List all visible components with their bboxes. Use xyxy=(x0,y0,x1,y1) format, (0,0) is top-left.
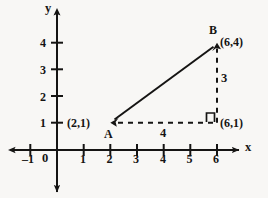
x-tick-label-3: 3 xyxy=(133,153,139,165)
x-tick-label-2: 2 xyxy=(107,153,113,165)
vertical-length-label: 3 xyxy=(221,72,227,85)
x-tick-label-5: 5 xyxy=(187,153,193,165)
right-angle-marker xyxy=(207,113,215,122)
y-tick-label-4: 4 xyxy=(40,37,46,49)
coord-label-c: (6,1) xyxy=(220,117,243,129)
y-tick-label-3: 3 xyxy=(40,64,46,76)
x-tick-label--1: –1 xyxy=(22,153,34,165)
x-tick-label-4: 4 xyxy=(160,153,166,165)
horizontal-length-label: 4 xyxy=(160,127,166,140)
coord-label-b: (6,4) xyxy=(220,36,243,48)
y-tick-label-1: 1 xyxy=(40,117,46,129)
x-tick-label-6: 6 xyxy=(213,153,219,165)
coord-label-a: (2,1) xyxy=(67,117,90,129)
x-tick-label-1: 1 xyxy=(80,153,86,165)
triangle-abc xyxy=(110,43,221,127)
point-label-a: A xyxy=(104,128,113,140)
point-label-b: B xyxy=(209,24,217,36)
origin-label: 0 xyxy=(42,152,48,165)
coordinate-plane-figure: y x 0 –1 1 2 3 4 5 6 1 2 3 4 (2,1) A B (… xyxy=(0,0,268,198)
y-axis-label: y xyxy=(45,2,51,15)
x-axis-label: x xyxy=(245,141,251,154)
y-axis xyxy=(51,8,63,192)
y-tick-label-2: 2 xyxy=(40,91,46,103)
segment-hypotenuse xyxy=(115,47,214,120)
